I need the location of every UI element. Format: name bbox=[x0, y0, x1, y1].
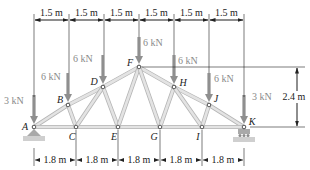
load-label-H: 6 kN bbox=[178, 55, 198, 66]
joint-A bbox=[32, 125, 36, 129]
joint-label-J: J bbox=[214, 93, 219, 104]
bottom-dimension-label: 1.8 m bbox=[44, 154, 67, 165]
supports bbox=[23, 129, 255, 142]
load-label-J: 6 kN bbox=[214, 73, 234, 84]
arrow-down-icon bbox=[205, 94, 213, 102]
load-label-B: 6 kN bbox=[41, 71, 61, 82]
joint-I bbox=[200, 125, 204, 129]
joint-label-F: F bbox=[126, 57, 134, 68]
joint-label-K: K bbox=[248, 116, 257, 127]
joint-label-A: A bbox=[21, 121, 29, 132]
ground-hatch bbox=[233, 137, 255, 142]
top-dimension-label: 1.5 m bbox=[145, 7, 168, 18]
load-arrows: 3 kN6 kN6 kN6 kN6 kN6 kN3 kN bbox=[4, 37, 272, 124]
bottom-dimension-label: 1.8 m bbox=[212, 154, 235, 165]
top-dimension-label: 1.5 m bbox=[215, 7, 238, 18]
roller-support-icon bbox=[238, 129, 250, 134]
joint-J bbox=[207, 103, 211, 107]
joint-label-H: H bbox=[178, 77, 187, 88]
bottom-dimension-label: 1.8 m bbox=[128, 154, 151, 165]
truss-diagram: ABCDEFGHIJK 3 kN6 kN6 kN6 kN6 kN6 kN3 kN… bbox=[0, 0, 310, 170]
joint-label-B: B bbox=[57, 94, 63, 105]
load-label-K: 3 kN bbox=[252, 91, 272, 102]
ground-hatch bbox=[23, 136, 45, 141]
joint-F bbox=[137, 65, 141, 69]
joint-B bbox=[66, 103, 70, 107]
joint-H bbox=[172, 85, 176, 89]
joint-D bbox=[101, 85, 105, 89]
joint-label-E: E bbox=[110, 131, 117, 142]
load-label-D: 6 kN bbox=[73, 53, 93, 64]
load-label-A: 3 kN bbox=[4, 95, 24, 106]
joint-label-D: D bbox=[89, 76, 98, 87]
height-dimension-label: 2.4 m bbox=[283, 91, 306, 102]
bottom-dimension-label: 1.8 m bbox=[170, 154, 193, 165]
top-dimension-label: 1.5 m bbox=[40, 7, 63, 18]
joint-K bbox=[242, 125, 246, 129]
arrow-down-icon bbox=[135, 56, 143, 64]
arrow-down-icon bbox=[64, 94, 72, 102]
joint-label-I: I bbox=[195, 131, 200, 142]
load-label-F: 6 kN bbox=[143, 37, 163, 48]
joint-C bbox=[74, 125, 78, 129]
bottom-dimension-label: 1.8 m bbox=[86, 154, 109, 165]
pin-support-icon bbox=[27, 129, 41, 136]
joint-E bbox=[116, 125, 120, 129]
top-dimension-label: 1.5 m bbox=[110, 7, 133, 18]
top-dimension-label: 1.5 m bbox=[180, 7, 203, 18]
top-dimension-label: 1.5 m bbox=[75, 7, 98, 18]
arrow-down-icon bbox=[99, 76, 107, 84]
joint-label-C: C bbox=[69, 131, 76, 142]
joint-G bbox=[158, 125, 162, 129]
arrow-down-icon bbox=[170, 76, 178, 84]
joint-label-G: G bbox=[150, 131, 157, 142]
